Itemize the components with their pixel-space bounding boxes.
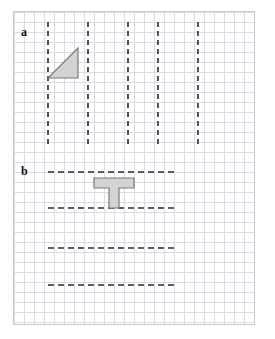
clipped-caption-text: · · · [60, 0, 220, 4]
graph-paper-grid [13, 11, 255, 325]
figure-canvas: · · · a b [0, 0, 275, 339]
panel-label-a: a [21, 26, 27, 38]
panel-label-b: b [21, 165, 28, 177]
